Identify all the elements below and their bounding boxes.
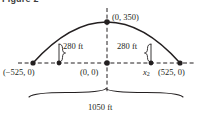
point-apex — [104, 19, 110, 25]
height-label-left: 280 ft — [63, 42, 83, 51]
span-label: 1050 ft — [88, 103, 112, 112]
height-brace-right — [145, 44, 152, 62]
parabolic-arch-figure: Figure 2 (0, 350) (−525, 0) (0, 0) x2 (5… — [0, 0, 203, 120]
right-endpoint-label: (525, 0) — [158, 68, 185, 77]
point-left-height-marker — [57, 61, 62, 66]
origin-label: (0, 0) — [80, 68, 98, 77]
span-brace-bottom — [29, 89, 183, 98]
point-left-endpoint — [30, 60, 35, 65]
point-right-endpoint — [177, 60, 182, 65]
apex-point-label: (0, 350) — [112, 13, 139, 22]
point-x2 — [149, 61, 154, 66]
x2-variable-label: x2 — [143, 68, 150, 77]
height-label-right: 280 ft — [117, 42, 137, 51]
point-origin — [104, 60, 110, 66]
left-endpoint-label: (−525, 0) — [3, 68, 35, 77]
x2-variable-subscript: 2 — [147, 71, 150, 77]
